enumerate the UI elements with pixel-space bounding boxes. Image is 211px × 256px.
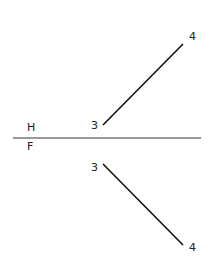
- label-h: H: [27, 122, 35, 133]
- top-view-label-3: 3: [91, 120, 98, 131]
- front-view-label-4: 4: [189, 242, 196, 253]
- top-view-label-4: 4: [189, 31, 196, 42]
- front-view-label-3: 3: [91, 162, 98, 173]
- label-f: F: [27, 141, 33, 152]
- front-view-line-3-4: [103, 164, 183, 245]
- top-view-line-3-4: [103, 44, 183, 125]
